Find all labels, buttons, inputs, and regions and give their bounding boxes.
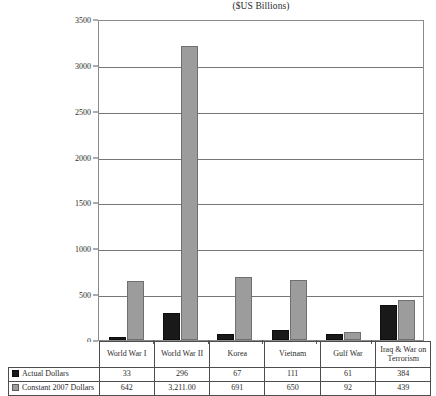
legend-entry: Constant 2007 Dollars: [9, 382, 100, 396]
bar-actual-dollars: [109, 337, 126, 340]
table-cell: 3,211.00: [154, 382, 209, 396]
data-table: World War IWorld War IIKoreaVietnamGulf …: [8, 341, 431, 396]
bar-actual-dollars: [380, 305, 397, 340]
table-cell: 111: [265, 368, 320, 382]
plot-inner: [99, 21, 423, 340]
y-axis-tick-label: 3500: [75, 16, 91, 25]
table-row: Actual Dollars332966711161384: [9, 368, 431, 382]
bar-actual-dollars: [326, 334, 343, 340]
bar-constant-2007-dollars: [127, 281, 144, 340]
table-cell: 642: [99, 382, 154, 396]
chart-title: ($US Billions): [98, 1, 424, 11]
table-category-header: Gulf War: [320, 342, 375, 368]
chart-page: ($US Billions) 0500100015002000250030003…: [0, 0, 436, 396]
table-category-header: Iraq & War on Terrorism: [376, 342, 431, 368]
bar-constant-2007-dollars: [235, 277, 252, 340]
table-cell: 92: [320, 382, 375, 396]
table-cell: 67: [210, 368, 265, 382]
bar-constant-2007-dollars: [290, 280, 307, 340]
y-axis-tick-label: 2500: [75, 107, 91, 116]
y-axis-tick-label: 2000: [75, 153, 91, 162]
plot-area: [98, 20, 424, 341]
bar-group: [262, 21, 316, 340]
table-body: World War IWorld War IIKoreaVietnamGulf …: [9, 342, 431, 396]
table-cell: 439: [376, 382, 431, 396]
table-category-header: Korea: [210, 342, 265, 368]
y-axis: 0500100015002000250030003500: [55, 20, 98, 341]
y-axis-tick-label: 1000: [75, 245, 91, 254]
table-category-header: World War I: [99, 342, 154, 368]
bar-group: [208, 21, 262, 340]
bar-actual-dollars: [217, 334, 234, 340]
table-cell: 296: [154, 368, 209, 382]
gray-square-icon: [12, 384, 19, 391]
y-axis-tick-label: 1500: [75, 199, 91, 208]
table-cell: 650: [265, 382, 320, 396]
y-axis-tick-label: 500: [79, 291, 91, 300]
bar-actual-dollars: [163, 313, 180, 340]
bar-group: [371, 21, 425, 340]
bar-group: [99, 21, 153, 340]
black-square-icon: [12, 370, 19, 377]
bar-group: [153, 21, 207, 340]
bar-actual-dollars: [272, 330, 289, 340]
legend-entry: Actual Dollars: [9, 368, 100, 382]
table-cell: 691: [210, 382, 265, 396]
table-cell: 33: [99, 368, 154, 382]
table-category-header: World War II: [154, 342, 209, 368]
table-corner-blank: [9, 342, 100, 368]
table-header-row: World War IWorld War IIKoreaVietnamGulf …: [9, 342, 431, 368]
bar-group: [316, 21, 370, 340]
bar-constant-2007-dollars: [344, 332, 361, 340]
bar-constant-2007-dollars: [398, 300, 415, 340]
bar-constant-2007-dollars: [181, 46, 198, 340]
table-row: Constant 2007 Dollars6423,211.0069165092…: [9, 382, 431, 396]
table-cell: 384: [376, 368, 431, 382]
y-axis-tick-label: 3000: [75, 61, 91, 70]
table-category-header: Vietnam: [265, 342, 320, 368]
legend-label: Actual Dollars: [22, 369, 69, 378]
table-cell: 61: [320, 368, 375, 382]
legend-label: Constant 2007 Dollars: [22, 383, 94, 392]
